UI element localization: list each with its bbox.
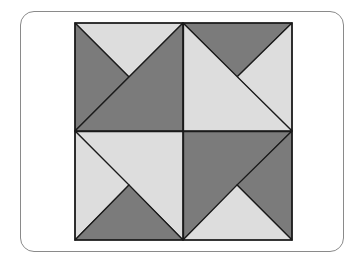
quadrant-top-right — [183, 23, 292, 131]
quadrant-bottom-left — [75, 131, 183, 240]
quadrant-bottom-right — [183, 131, 292, 240]
quadrant-top-left — [75, 23, 183, 131]
quilt-block-diagram — [0, 0, 348, 264]
